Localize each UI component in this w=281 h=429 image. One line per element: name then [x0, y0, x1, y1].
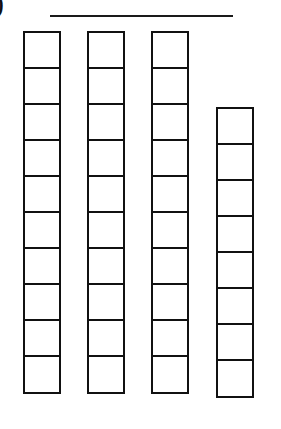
unit-cell	[23, 175, 61, 214]
unit-cell	[151, 211, 189, 250]
block-column-tens-rod-2	[87, 31, 125, 394]
unit-cell	[216, 107, 254, 146]
unit-cell	[23, 139, 61, 178]
unit-cell	[87, 319, 125, 358]
unit-cell	[87, 31, 125, 70]
unit-cell	[87, 139, 125, 178]
unit-cell	[151, 103, 189, 142]
unit-cell	[151, 31, 189, 70]
unit-cell	[216, 179, 254, 218]
unit-cell	[216, 359, 254, 398]
unit-cell	[87, 283, 125, 322]
unit-cell	[23, 67, 61, 106]
unit-cell	[87, 247, 125, 286]
block-column-tens-rod-1	[23, 31, 61, 394]
unit-cell	[151, 247, 189, 286]
unit-cell	[23, 103, 61, 142]
unit-cell	[216, 143, 254, 182]
unit-cell	[216, 251, 254, 290]
problem-label: )	[0, 0, 4, 18]
unit-cell	[87, 211, 125, 250]
unit-cell	[23, 211, 61, 250]
unit-cell	[151, 283, 189, 322]
unit-cell	[23, 247, 61, 286]
block-column-partial-rod	[216, 107, 254, 398]
unit-cell	[151, 175, 189, 214]
unit-cell	[87, 67, 125, 106]
block-column-tens-rod-3	[151, 31, 189, 394]
unit-cell	[23, 355, 61, 394]
unit-cell	[23, 319, 61, 358]
unit-cell	[216, 215, 254, 254]
unit-cell	[151, 67, 189, 106]
answer-line[interactable]	[50, 15, 233, 17]
unit-cell	[87, 355, 125, 394]
unit-cell	[23, 283, 61, 322]
unit-cell	[151, 139, 189, 178]
unit-cell	[23, 31, 61, 70]
unit-cell	[151, 319, 189, 358]
unit-cell	[87, 103, 125, 142]
unit-cell	[216, 287, 254, 326]
unit-cell	[151, 355, 189, 394]
unit-cell	[87, 175, 125, 214]
unit-cell	[216, 323, 254, 362]
